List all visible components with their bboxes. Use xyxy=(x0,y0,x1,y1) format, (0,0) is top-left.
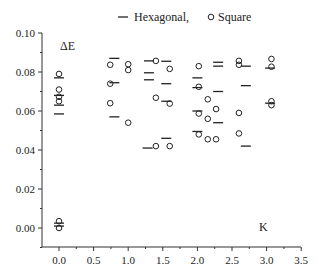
legend: Hexagonal, Square xyxy=(118,10,251,24)
square-circle-marker xyxy=(196,63,202,69)
legend-hexagonal-label: Hexagonal, xyxy=(134,10,189,24)
square-circle-marker xyxy=(107,100,113,106)
square-circle-marker xyxy=(125,67,131,73)
x-tick-label: 1.5 xyxy=(156,254,170,266)
square-circle-marker xyxy=(196,132,202,138)
square-circle-marker xyxy=(213,106,219,112)
square-circle-marker xyxy=(167,143,173,149)
square-circle-marker xyxy=(196,84,202,90)
y-tick-label: 0.00 xyxy=(16,222,36,234)
square-circle-marker xyxy=(56,71,62,77)
x-tick-label: 1.0 xyxy=(121,254,135,266)
square-circle-marker xyxy=(236,62,242,68)
square-circle-marker xyxy=(125,120,131,126)
x-tick-label: 0.5 xyxy=(87,254,101,266)
square-circle-marker xyxy=(269,56,275,62)
y-tick-label: 0.06 xyxy=(16,105,36,117)
square-circle-marker xyxy=(205,116,211,122)
square-circle-marker xyxy=(236,131,242,137)
scatter-chart: 0.000.020.040.060.080.10 0.00.51.01.52.0… xyxy=(0,0,319,280)
square-circle-marker xyxy=(205,97,211,103)
y-tick-label: 0.10 xyxy=(16,27,36,39)
y-axis: 0.000.020.040.060.080.10 xyxy=(16,27,42,248)
x-axis-title: K xyxy=(259,220,268,234)
x-axis: 0.00.51.01.52.02.53.03.5 xyxy=(42,247,309,266)
square-circle-marker xyxy=(107,62,113,68)
square-circle-marker xyxy=(125,61,131,67)
y-tick-label: 0.04 xyxy=(16,144,36,156)
square-circle-marker xyxy=(56,87,62,93)
square-circle-marker xyxy=(153,95,159,101)
square-circle-marker xyxy=(236,110,242,116)
square-circle-marker xyxy=(167,66,173,72)
x-tick-label: 2.0 xyxy=(191,254,205,266)
square-circle-marker xyxy=(205,136,211,142)
y-tick-label: 0.08 xyxy=(16,66,36,78)
y-tick-label: 0.02 xyxy=(16,183,35,195)
y-axis-title: ΔE xyxy=(60,39,75,53)
square-circle-marker xyxy=(213,136,219,142)
legend-square-label: Square xyxy=(218,10,251,24)
legend-circle-icon xyxy=(208,14,214,20)
x-tick-label: 0.0 xyxy=(52,254,66,266)
square-circle-marker xyxy=(153,143,159,149)
x-tick-label: 3.5 xyxy=(294,254,308,266)
square-circle-marker xyxy=(107,81,113,87)
plot-points xyxy=(54,56,275,231)
x-tick-label: 2.5 xyxy=(225,254,239,266)
x-tick-label: 3.0 xyxy=(260,254,274,266)
